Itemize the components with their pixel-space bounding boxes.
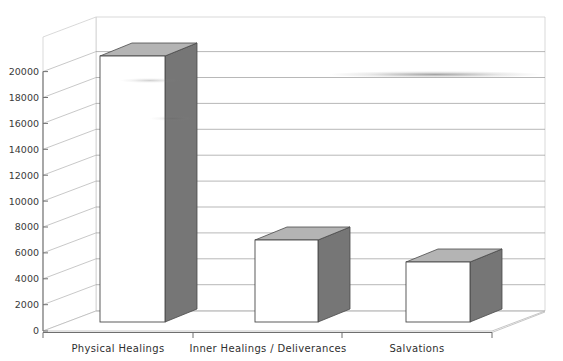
bar-inner-healings-deliverances[interactable] xyxy=(255,227,350,322)
bar-3-front-face xyxy=(406,262,470,322)
y-tick-label-6000: 6000 xyxy=(15,247,39,258)
y-tick-label-12000: 12000 xyxy=(9,170,39,181)
y-tick-label-14000: 14000 xyxy=(9,144,39,155)
left-wall xyxy=(43,17,96,331)
bar-salvations[interactable] xyxy=(406,249,502,322)
bar-1-front-face xyxy=(100,56,165,322)
y-tick-label-10000: 10000 xyxy=(9,196,39,207)
y-tick-label-8000: 8000 xyxy=(15,221,39,232)
bar-physical-healings[interactable] xyxy=(100,43,197,322)
x-axis-ticks xyxy=(43,333,492,339)
y-tick-label-18000: 18000 xyxy=(9,92,39,103)
y-tick-label-4000: 4000 xyxy=(15,273,39,284)
y-tick-label-20000: 20000 xyxy=(9,66,39,77)
bar-2-side-face xyxy=(318,227,350,322)
x-category-label-salvations: Salvations xyxy=(389,343,444,354)
bar-1-side-face xyxy=(165,43,197,322)
bar-chart-3d: 20000 18000 16000 14000 12000 10000 8000… xyxy=(0,0,563,361)
y-tick-label-16000: 16000 xyxy=(9,118,39,129)
chart-container: 20000 18000 16000 14000 12000 10000 8000… xyxy=(0,0,563,361)
x-category-label-inner-healings-deliverances: Inner Healings / Deliverances xyxy=(189,343,346,354)
x-category-label-physical-healings: Physical Healings xyxy=(71,343,164,354)
bar-2-front-face xyxy=(255,240,318,322)
y-tick-label-2000: 2000 xyxy=(15,299,39,310)
y-tick-label-0: 0 xyxy=(33,325,39,336)
y-axis: 20000 18000 16000 14000 12000 10000 8000… xyxy=(9,66,48,336)
